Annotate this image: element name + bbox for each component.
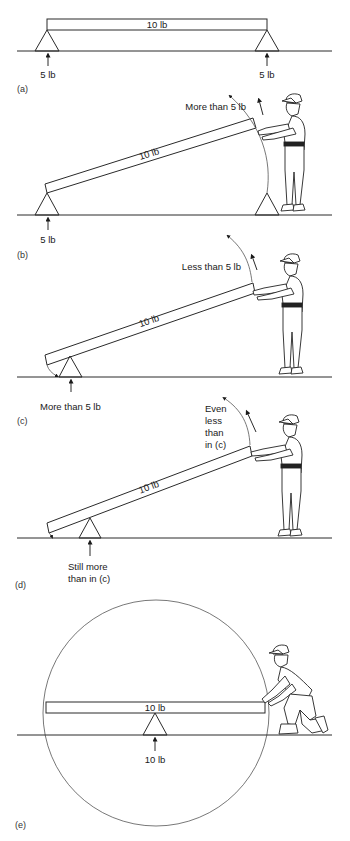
support-triangle <box>79 518 101 538</box>
beam-weight-label: 10 lb <box>137 145 160 162</box>
panel-c: 10 lb Less than 5 lb More than 5 lb (c) <box>17 236 332 426</box>
support-force-label: 5 lb <box>40 234 55 245</box>
support-force-label: More than 5 lb <box>40 401 101 412</box>
panel-b: 10 lb More than 5 lb 5 lb (b) <box>17 94 332 260</box>
lift-force-arrow <box>259 100 263 115</box>
left-support-triangle <box>35 30 59 51</box>
support-force-label-line1: Still more <box>68 561 108 572</box>
person-standing-icon <box>251 415 302 536</box>
panel-d: 10 lb Even less than in (c) Still more t… <box>15 398 332 590</box>
right-force-label: 5 lb <box>259 69 274 80</box>
support-triangle <box>35 193 59 215</box>
lift-force-arrow <box>252 256 257 270</box>
beam-drop-arrow <box>47 365 57 376</box>
beam-weight-label: 10 lb <box>137 478 160 496</box>
panel-label: (d) <box>15 580 26 590</box>
panel-e: 10 lb 10 lb (e) <box>15 600 332 830</box>
support-triangle <box>143 713 167 735</box>
lift-force-label-line1: Even <box>205 403 227 414</box>
panel-label: (a) <box>17 84 28 94</box>
ghost-support-triangle <box>255 193 279 215</box>
rotation-arc-arrow <box>224 398 250 445</box>
beam-weight-label: 10 lb <box>147 19 168 30</box>
panel-label: (e) <box>15 820 26 830</box>
left-force-label: 5 lb <box>40 69 55 80</box>
lift-force-arrow <box>247 412 256 432</box>
lift-force-label-line4: in (c) <box>205 439 226 450</box>
person-standing-icon <box>253 254 303 374</box>
lever-diagram: 10 lb 5 lb 5 lb (a) 10 lb More than 5 lb… <box>0 0 350 841</box>
beam-drop-arrow <box>49 533 52 537</box>
panel-label: (b) <box>17 250 28 260</box>
beam-weight-label: 10 lb <box>145 702 166 713</box>
panel-label: (c) <box>17 416 28 426</box>
right-support-triangle <box>255 30 279 51</box>
panel-a: 10 lb 5 lb 5 lb (a) <box>17 19 332 94</box>
person-kneeling-icon <box>262 645 328 734</box>
lift-force-label-line2: less <box>205 415 222 426</box>
lift-force-label: Less than 5 lb <box>182 261 241 272</box>
lift-force-label: More than 5 lb <box>185 101 246 112</box>
lift-force-label-line3: than <box>205 427 224 438</box>
rotation-arc-arrow <box>228 236 252 282</box>
support-force-label-line2: than in (c) <box>68 573 110 584</box>
support-force-label: 10 lb <box>145 754 166 765</box>
